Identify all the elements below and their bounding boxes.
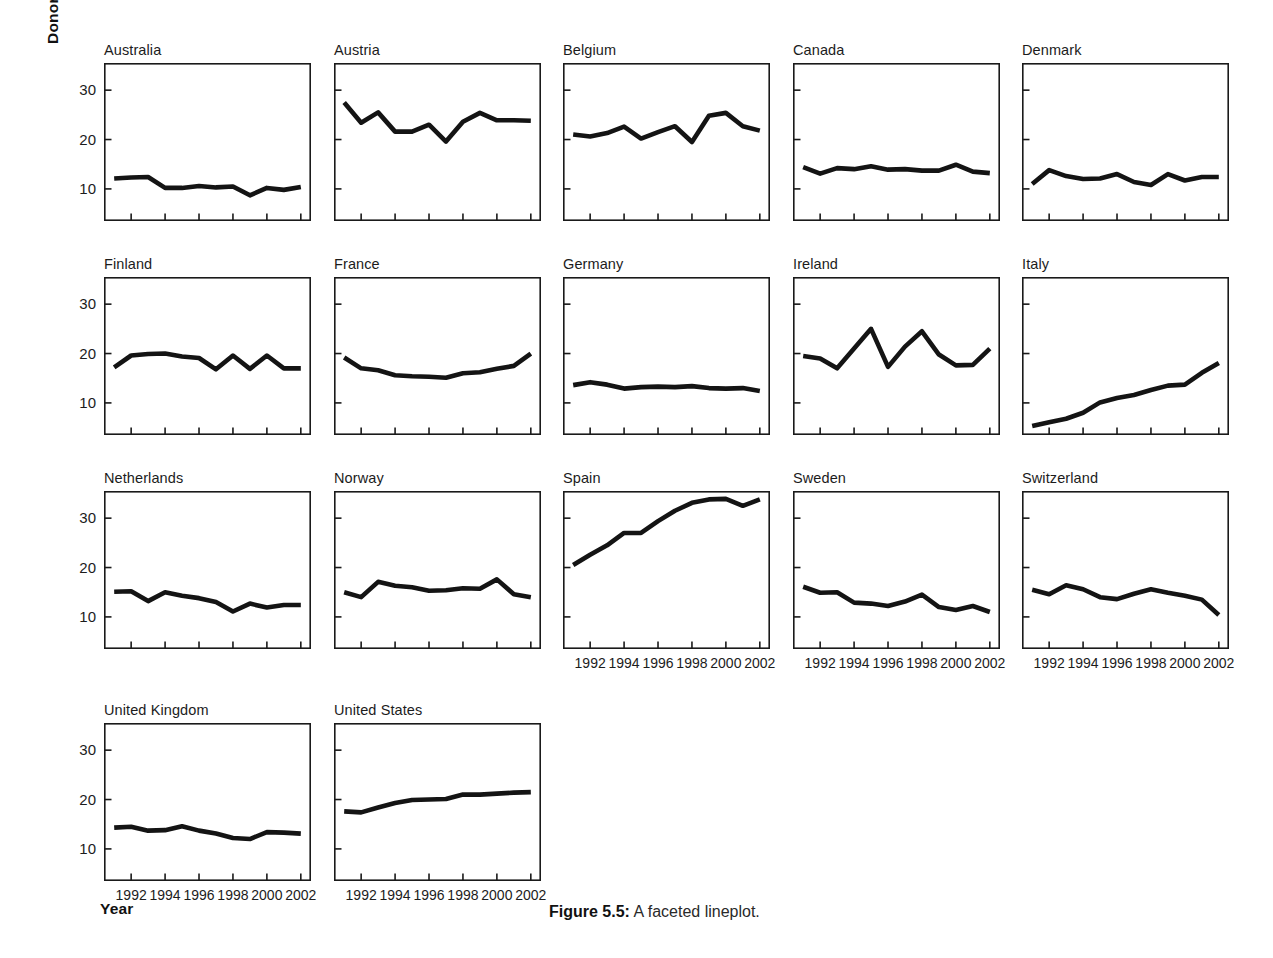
panel-title: Italy bbox=[1022, 256, 1049, 272]
plot-area bbox=[104, 63, 311, 221]
data-line bbox=[1032, 585, 1219, 615]
y-tick-label: 30 bbox=[64, 82, 96, 97]
data-line bbox=[114, 591, 301, 611]
panel-frame bbox=[564, 64, 769, 220]
panel-title: Netherlands bbox=[104, 470, 183, 486]
panel-title: Finland bbox=[104, 256, 152, 272]
data-line bbox=[114, 177, 301, 195]
panel-frame bbox=[105, 64, 310, 220]
plot-area bbox=[104, 723, 311, 881]
panel-frame bbox=[1023, 492, 1228, 648]
y-tick-label: 20 bbox=[64, 560, 96, 575]
panel-frame bbox=[1023, 278, 1228, 434]
y-tick-label: 30 bbox=[64, 742, 96, 757]
plot-area bbox=[334, 723, 541, 881]
panel-frame bbox=[564, 278, 769, 434]
plot-area bbox=[1022, 63, 1229, 221]
y-axis-title: Donors bbox=[44, 0, 62, 44]
plot-area bbox=[334, 277, 541, 435]
data-line bbox=[573, 499, 760, 565]
data-line bbox=[1032, 363, 1219, 426]
data-line bbox=[114, 826, 301, 839]
figure-caption: Figure 5.5: A faceted lineplot. bbox=[549, 903, 760, 921]
data-line bbox=[344, 354, 531, 378]
plot-area bbox=[334, 63, 541, 221]
data-line bbox=[114, 354, 301, 370]
figure-caption-text: A faceted lineplot. bbox=[630, 903, 760, 920]
panel-title: Canada bbox=[793, 42, 844, 58]
y-tick-label: 10 bbox=[64, 841, 96, 856]
plot-area bbox=[104, 277, 311, 435]
x-tick-label: 2002 bbox=[509, 888, 553, 903]
panel-title: Germany bbox=[563, 256, 623, 272]
data-line bbox=[803, 587, 990, 612]
panel-title: United States bbox=[334, 702, 422, 718]
panel-frame bbox=[335, 492, 540, 648]
panel-frame bbox=[335, 64, 540, 220]
x-tick-label: 2002 bbox=[1197, 656, 1241, 671]
plot-area bbox=[334, 491, 541, 649]
data-line bbox=[803, 329, 990, 369]
y-tick-label: 10 bbox=[64, 395, 96, 410]
plot-area bbox=[793, 491, 1000, 649]
y-tick-label: 20 bbox=[64, 792, 96, 807]
plot-area bbox=[1022, 277, 1229, 435]
plot-area bbox=[793, 277, 1000, 435]
panel-frame bbox=[1023, 64, 1228, 220]
panel-frame bbox=[794, 492, 999, 648]
data-line bbox=[344, 103, 531, 142]
panel-title: Belgium bbox=[563, 42, 616, 58]
panel-title: Norway bbox=[334, 470, 384, 486]
y-tick-label: 20 bbox=[64, 346, 96, 361]
y-tick-label: 20 bbox=[64, 132, 96, 147]
panel-title: Sweden bbox=[793, 470, 846, 486]
data-line bbox=[573, 382, 760, 391]
x-tick-label: 2002 bbox=[279, 888, 323, 903]
plot-area bbox=[793, 63, 1000, 221]
panel-title: Australia bbox=[104, 42, 161, 58]
panel-title: Ireland bbox=[793, 256, 838, 272]
plot-area bbox=[563, 277, 770, 435]
y-tick-label: 30 bbox=[64, 510, 96, 525]
panel-title: Spain bbox=[563, 470, 601, 486]
x-tick-label: 2002 bbox=[968, 656, 1012, 671]
data-line bbox=[344, 792, 531, 812]
panel-title: United Kingdom bbox=[104, 702, 209, 718]
y-tick-label: 30 bbox=[64, 296, 96, 311]
data-line bbox=[573, 113, 760, 142]
panel-frame bbox=[335, 278, 540, 434]
data-line bbox=[344, 579, 531, 597]
plot-area bbox=[1022, 491, 1229, 649]
data-line bbox=[803, 165, 990, 174]
plot-area bbox=[104, 491, 311, 649]
panel-frame bbox=[105, 724, 310, 880]
panel-title: Switzerland bbox=[1022, 470, 1098, 486]
panel-frame bbox=[105, 492, 310, 648]
y-tick-label: 10 bbox=[64, 609, 96, 624]
x-axis-title: Year bbox=[100, 900, 134, 918]
y-tick-label: 10 bbox=[64, 181, 96, 196]
x-tick-label: 2002 bbox=[738, 656, 782, 671]
figure-caption-label: Figure 5.5: bbox=[549, 903, 630, 920]
plot-area bbox=[563, 491, 770, 649]
panel-frame bbox=[335, 724, 540, 880]
panel-title: France bbox=[334, 256, 380, 272]
panel-title: Denmark bbox=[1022, 42, 1082, 58]
panel-title: Austria bbox=[334, 42, 380, 58]
data-line bbox=[1032, 170, 1219, 185]
faceted-lineplot-figure: Donors Australia102030AustriaBelgiumCana… bbox=[0, 0, 1273, 958]
panel-frame bbox=[794, 64, 999, 220]
plot-area bbox=[563, 63, 770, 221]
